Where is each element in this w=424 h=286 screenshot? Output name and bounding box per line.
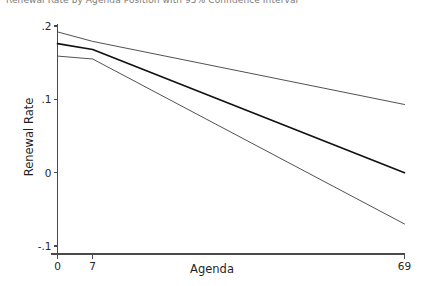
x-axis-ticks xyxy=(58,254,405,259)
series-line-point-estimate xyxy=(58,44,405,173)
x-axis-tick-label: 7 xyxy=(73,261,113,272)
chart-container: Renewal Rate by Agenda Position with 95%… xyxy=(0,0,424,286)
series-line-lower-bound xyxy=(58,56,405,224)
y-axis-tick-label: .2 xyxy=(14,21,52,32)
plot-area xyxy=(0,0,424,286)
axes xyxy=(51,24,405,259)
y-axis-tick-label: 0 xyxy=(14,168,52,179)
y-axis-tick-label: .1 xyxy=(14,94,52,105)
x-axis-tick-label: 69 xyxy=(385,261,424,272)
y-axis-tick-label: -.1 xyxy=(14,241,52,252)
y-axis-ticks xyxy=(54,26,58,246)
x-axis-tick-label: 0 xyxy=(38,261,78,272)
data-series-group xyxy=(58,32,405,224)
